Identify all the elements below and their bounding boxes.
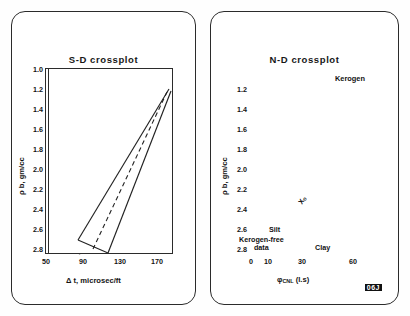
anno-kerogen-free-nd: Kerogen-free data [239,236,284,253]
plot-area-nd [48,68,173,254]
ytick-nd-7: 2.6 [225,226,247,233]
plot-lines-nd [49,69,174,255]
xtick-sd-3: 170 [145,258,169,265]
ytick-nd-2: 1.6 [225,126,247,133]
anno-silt-nd: Silt [269,226,280,234]
ytick-nd-3: 1.8 [225,146,247,153]
xtick-nd-2: 30 [290,258,314,265]
anno-kerogen-nd: Kerogen [335,75,365,83]
xtick-nd-1: 10 [256,258,280,265]
yaxis-title-nd: ρ b, gm/cc [220,157,229,195]
figure-root: S-D crossplot 1.0 1.2 1.4 1.6 1.8 2.0 2.… [0,0,410,316]
line-kerogen-free-tie-nd [78,240,108,253]
ytick-sd-9: 2.8 [21,246,43,253]
ytick-sd-0: 1.0 [21,66,43,73]
corner-page-mark: 06J [365,284,382,291]
yaxis-title-sd: ρ b, gm/cc [17,157,26,195]
panel-title-nd: N-D crossplot [211,54,398,65]
line-clay-nd [108,91,171,253]
ytick-sd-4: 1.8 [21,146,43,153]
ytick-sd-2: 1.4 [21,106,43,113]
line-xo-dashed-nd [93,92,167,249]
ytick-nd-0: 1.2 [225,86,247,93]
ytick-nd-6: 2.4 [225,206,247,213]
ytick-sd-8: 2.6 [21,226,43,233]
line-silt-nd [78,89,169,240]
anno-clay-nd: Clay [315,244,330,252]
xtick-nd-3: 60 [341,258,365,265]
xtick-sd-1: 90 [71,258,95,265]
xtick-sd-2: 130 [108,258,132,265]
ytick-sd-1: 1.2 [21,86,43,93]
panel-title-sd: S-D crossplot [12,54,195,65]
xtick-sd-0: 50 [34,258,58,265]
ytick-nd-1: 1.4 [225,106,247,113]
xaxis-title-nd: φCNL (l.s) [277,275,309,284]
ytick-sd-3: 1.6 [21,126,43,133]
ytick-sd-7: 2.4 [21,206,43,213]
xaxis-title-sd: Δ t, microsec/ft [66,276,121,285]
